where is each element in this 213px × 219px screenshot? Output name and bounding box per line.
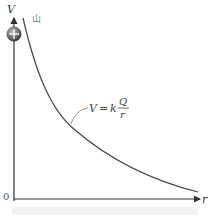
formula-equals: = (99, 102, 108, 115)
formula: V = k Q r (89, 96, 129, 120)
top-mark: 山 (32, 14, 41, 24)
y-axis-label: V (7, 3, 16, 16)
formula-lhs: V (89, 102, 98, 115)
x-axis-label: r (202, 193, 208, 206)
figure-caption (12, 207, 198, 215)
formula-leader-line (71, 108, 88, 124)
formula-denominator: r (120, 109, 126, 120)
formula-k: k (110, 102, 117, 115)
potential-diagram: V r 0 山 V = k Q r (0, 0, 213, 219)
positive-charge-icon (7, 27, 22, 42)
formula-numerator: Q (119, 96, 127, 107)
origin-label: 0 (3, 191, 9, 202)
